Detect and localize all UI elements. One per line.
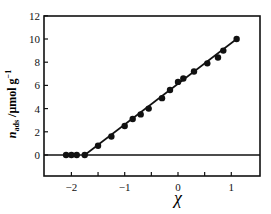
data-point [204,60,210,66]
data-point [159,95,165,101]
data-point [129,116,135,122]
x-axis-label: χ [172,188,183,208]
chart: 024681012 −2−101 χ nads /μmol g−1 [0,0,271,214]
data-point [74,152,80,158]
y-tick-label: 0 [35,149,41,161]
y-tick-label: 8 [35,56,41,68]
data-point [137,111,143,117]
y-axis-label-exp: −1 [4,70,13,79]
data-point [175,79,181,85]
y-tick-label: 12 [29,10,40,22]
y-tick-label: 10 [29,33,41,45]
chart-lines [44,39,260,155]
x-axis-ticks: −2−101 [66,172,235,193]
data-point [215,54,221,60]
y-axis-label-unit: /μmol g [5,78,19,119]
data-point [167,87,173,93]
y-axis-label-sub: ads [12,120,21,132]
y-axis-label: nads /μmol g−1 [4,70,21,138]
data-point [191,68,197,74]
data-point [180,75,186,81]
y-tick-label: 6 [35,79,41,91]
x-tick-label: −1 [119,181,131,193]
data-point [145,105,151,111]
x-tick-label: −2 [66,181,78,193]
data-point [233,36,239,42]
x-tick-label: 1 [229,181,235,193]
data-points [63,36,240,158]
data-point [220,47,226,53]
data-point [95,143,101,149]
y-tick-label: 4 [35,103,41,115]
y-tick-label: 2 [35,126,41,138]
data-point [122,123,128,129]
svg-text:nads /μmol g−1: nads /μmol g−1 [4,70,21,138]
data-point [108,133,114,139]
y-axis-ticks: 024681012 [29,10,48,161]
data-point [82,152,88,158]
